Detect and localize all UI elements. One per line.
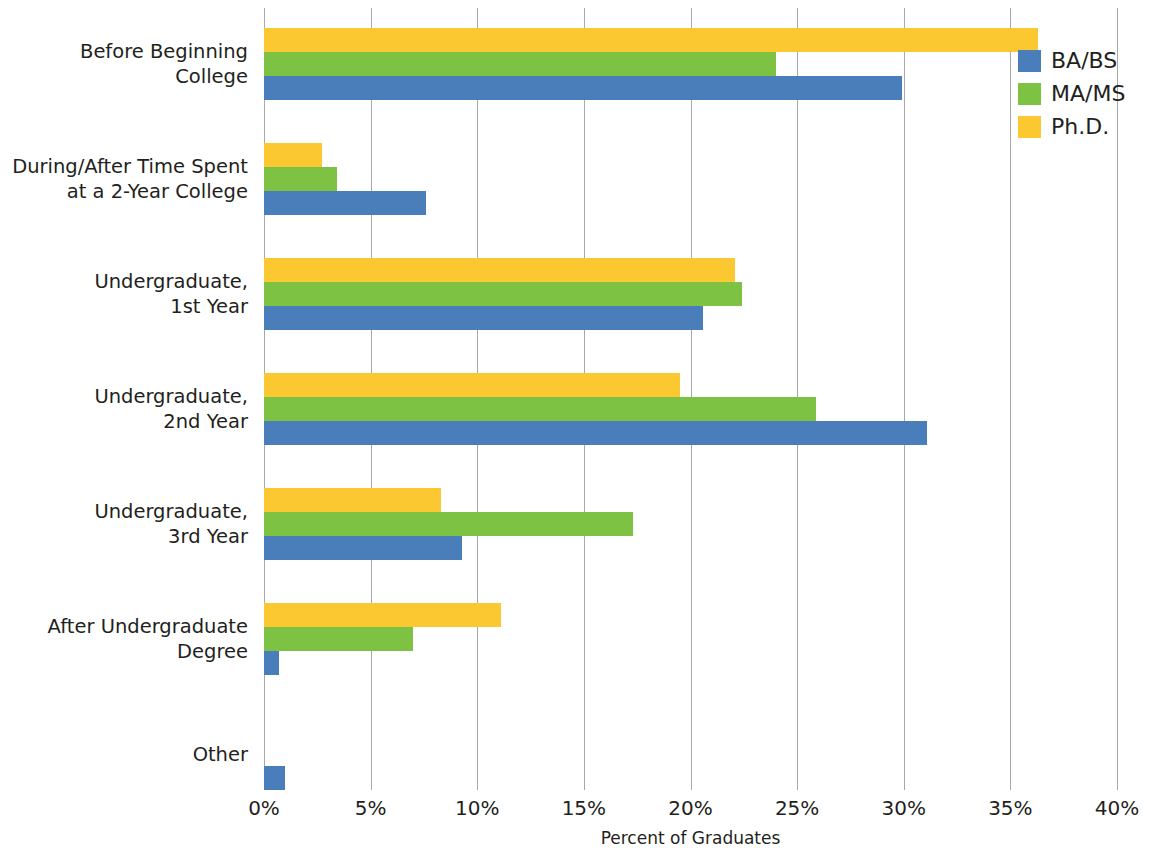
y-axis-category-label: During/After Time Spent at a 2-Year Coll… (0, 154, 248, 204)
bar (264, 28, 1038, 52)
bar (264, 397, 816, 421)
x-axis-tick-label: 35% (965, 796, 1055, 820)
y-axis-category-label: Undergraduate, 1st Year (0, 269, 248, 319)
x-axis-tick-labels: 0%5%10%15%20%25%30%35%40% (264, 790, 1117, 824)
bar (264, 76, 902, 100)
legend-item[interactable]: Ph.D. (1018, 110, 1150, 143)
legend-label: MA/MS (1051, 81, 1125, 106)
bar (264, 488, 441, 512)
y-axis-category-labels: Before Beginning CollegeDuring/After Tim… (0, 0, 248, 862)
bar (264, 421, 927, 445)
x-axis-tick-label: 5% (326, 796, 416, 820)
bar (264, 512, 633, 536)
legend-label: BA/BS (1051, 48, 1117, 73)
legend-label: Ph.D. (1051, 114, 1109, 139)
plot-area (264, 8, 1117, 790)
legend-item[interactable]: MA/MS (1018, 77, 1150, 110)
y-axis-category-label: Undergraduate, 2nd Year (0, 384, 248, 434)
legend-item[interactable]: BA/BS (1018, 44, 1150, 77)
bar (264, 191, 426, 215)
legend-swatch-icon (1018, 116, 1041, 138)
bar-group (264, 258, 1117, 330)
legend-swatch-icon (1018, 83, 1041, 105)
x-axis-tick-label: 0% (219, 796, 309, 820)
bar-group (264, 603, 1117, 675)
x-axis-tick-label: 10% (432, 796, 522, 820)
bar-group (264, 718, 1117, 790)
x-axis-tick-label: 20% (646, 796, 736, 820)
bar (264, 258, 735, 282)
bar-group (264, 28, 1117, 100)
bar (264, 167, 337, 191)
bar (264, 282, 742, 306)
x-axis-tick-label: 15% (539, 796, 629, 820)
x-axis-tick-label: 30% (859, 796, 949, 820)
bar (264, 627, 413, 651)
y-axis-category-label: Other (0, 742, 248, 767)
bar-group (264, 373, 1117, 445)
x-axis-tick-label: 40% (1072, 796, 1150, 820)
bar (264, 536, 462, 560)
legend-swatch-icon (1018, 50, 1041, 72)
y-axis-category-label: After Undergraduate Degree (0, 614, 248, 664)
y-axis-category-label: Undergraduate, 3rd Year (0, 499, 248, 549)
bar (264, 306, 703, 330)
bar (264, 373, 680, 397)
bar-chart: Before Beginning CollegeDuring/After Tim… (0, 0, 1150, 862)
bar (264, 52, 776, 76)
x-axis-title: Percent of Graduates (264, 828, 1117, 848)
bar (264, 766, 285, 790)
chart-legend: BA/BSMA/MSPh.D. (1018, 44, 1150, 143)
bar-group (264, 143, 1117, 215)
x-axis-tick-label: 25% (752, 796, 842, 820)
bar (264, 603, 501, 627)
bar (264, 143, 322, 167)
y-axis-category-label: Before Beginning College (0, 39, 248, 89)
bar-group (264, 488, 1117, 560)
bar (264, 651, 279, 675)
